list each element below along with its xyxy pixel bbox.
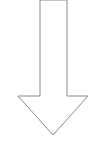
- down-arrow-icon: [0, 0, 103, 159]
- diagram-canvas: [0, 0, 103, 159]
- down-arrow-shape: [18, 0, 88, 135]
